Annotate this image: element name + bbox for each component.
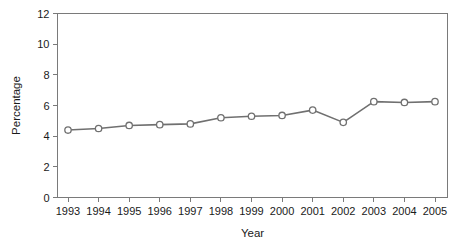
y-axis-title: Percentage (10, 76, 22, 135)
x-tick-label: 2001 (300, 205, 324, 217)
data-point-marker (95, 125, 101, 131)
x-axis-title: Year (241, 227, 264, 239)
y-tick-label: 2 (43, 161, 49, 173)
x-tick-label: 1993 (56, 205, 80, 217)
data-point-marker (371, 98, 377, 104)
x-tick-label: 2003 (362, 205, 386, 217)
x-tick-label: 1999 (239, 205, 263, 217)
x-tick-label: 1994 (86, 205, 110, 217)
data-point-marker (126, 122, 132, 128)
line-chart: 024681012 199319941995199619971998199920… (0, 0, 472, 248)
data-point-marker (248, 113, 254, 119)
x-tick-label: 1996 (148, 205, 172, 217)
data-point-marker (401, 99, 407, 105)
data-point-marker (279, 112, 285, 118)
y-tick-label: 8 (43, 69, 49, 81)
x-tick-label: 1998 (209, 205, 233, 217)
y-tick-label: 4 (43, 130, 49, 142)
x-tick-label: 1997 (178, 205, 202, 217)
chart-canvas: 024681012 199319941995199619971998199920… (0, 0, 472, 248)
data-point-marker (340, 119, 346, 125)
data-point-marker (65, 127, 71, 133)
y-tick-label: 6 (43, 100, 49, 112)
data-point-marker (309, 107, 315, 113)
y-tick-label: 10 (37, 38, 49, 50)
data-point-marker (187, 121, 193, 127)
x-tick-label: 2004 (392, 205, 416, 217)
data-point-marker (432, 98, 438, 104)
data-point-marker (157, 121, 163, 127)
x-tick-label: 1995 (117, 205, 141, 217)
x-tick-label: 2005 (423, 205, 447, 217)
y-tick-label: 0 (43, 192, 49, 204)
y-tick-label: 12 (37, 8, 49, 20)
data-point-marker (218, 115, 224, 121)
x-tick-label: 2000 (270, 205, 294, 217)
x-tick-label: 2002 (331, 205, 355, 217)
